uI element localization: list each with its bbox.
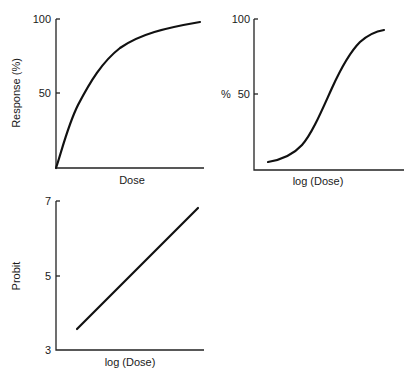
y-axis-label: % <box>221 88 231 100</box>
y-axis-label: Response (%) <box>10 58 22 128</box>
tick-label-5: 5 <box>45 270 51 282</box>
y-axis-label: Probit <box>10 262 22 291</box>
tick-label-50: 50 <box>39 87 51 99</box>
tick-label-3: 3 <box>45 344 51 356</box>
hyperbolic-curve <box>56 22 200 168</box>
tick-label-100: 100 <box>232 13 250 25</box>
x-axis-label: log (Dose) <box>105 356 156 368</box>
tick-label-100: 100 <box>33 13 51 25</box>
chart-log-dose-response: 100 50 % log (Dose) <box>221 13 404 187</box>
x-axis-label: Dose <box>119 174 145 186</box>
probit-line <box>77 208 198 329</box>
figure: 100 50 Response (%) Dose 100 50 % log (D… <box>0 0 414 377</box>
x-axis-label: log (Dose) <box>293 175 344 187</box>
chart-probit: 7 5 3 Probit log (Dose) <box>10 195 204 368</box>
sigmoid-curve <box>268 30 384 162</box>
chart-dose-response: 100 50 Response (%) Dose <box>10 13 204 186</box>
tick-label-7: 7 <box>45 195 51 207</box>
tick-label-50: 50 <box>238 88 250 100</box>
